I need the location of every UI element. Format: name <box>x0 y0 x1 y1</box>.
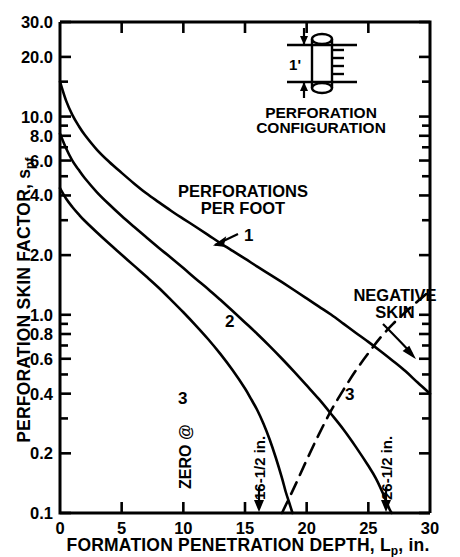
y-tick-label: 0.1 <box>30 504 53 522</box>
inset-title-line2: CONFIGURATION <box>256 119 386 136</box>
svg-text:FORMATION PENETRATION DEPTH, L: FORMATION PENETRATION DEPTH, Lp, in. <box>67 535 430 557</box>
inset-spacing-label: 1' <box>289 56 301 73</box>
perforations-per-foot-line2: PER FOOT <box>201 199 285 217</box>
curve-label-2: 2 <box>225 312 234 331</box>
y-tick-label: 10.0 <box>21 108 53 126</box>
y-tick-label: 30.0 <box>21 13 53 31</box>
perforation-skin-factor-chart: 30.020.010.08.06.04.02.01.00.80.60.40.20… <box>0 0 460 557</box>
figure-root: 30.020.010.08.06.04.02.01.00.80.60.40.20… <box>0 0 460 557</box>
x-axis-title-subscript: p <box>391 544 399 557</box>
y-axis-title-subscript: pf <box>23 156 37 169</box>
y-tick-label: 8.0 <box>30 127 53 145</box>
callout-16-half-inch: 16-1/2 in. <box>251 436 268 512</box>
y-axis-title: PERFORATION SKIN FACTOR, spf <box>14 156 37 442</box>
callout-26-half-inch: 26-1/2 in. <box>378 436 395 512</box>
perforations-per-foot-line1: PERFORATIONS <box>178 182 308 200</box>
zero-at-label: ZERO @ <box>177 425 194 490</box>
x-axis-title: FORMATION PENETRATION DEPTH, Lp, in. <box>67 535 430 557</box>
y-tick-label: 20.0 <box>21 48 53 66</box>
curve-label-3: 3 <box>178 389 187 408</box>
x-axis-title-units: , in. <box>398 535 429 555</box>
y-axis-title-text: PERFORATION SKIN FACTOR, s <box>14 169 34 443</box>
curve-label-3-dashed: 3 <box>345 385 354 404</box>
negative-skin-line2: SKIN <box>375 303 414 321</box>
svg-text:PERFORATION SKIN FACTOR, spf: PERFORATION SKIN FACTOR, spf <box>14 156 37 442</box>
y-tick-label: 0.2 <box>30 444 53 462</box>
curve-label-1: 1 <box>244 226 253 245</box>
negative-skin-line1: NEGATIVE <box>353 286 436 304</box>
x-tick-label: 0 <box>55 519 64 537</box>
x-axis-title-text: FORMATION PENETRATION DEPTH, L <box>67 535 391 555</box>
